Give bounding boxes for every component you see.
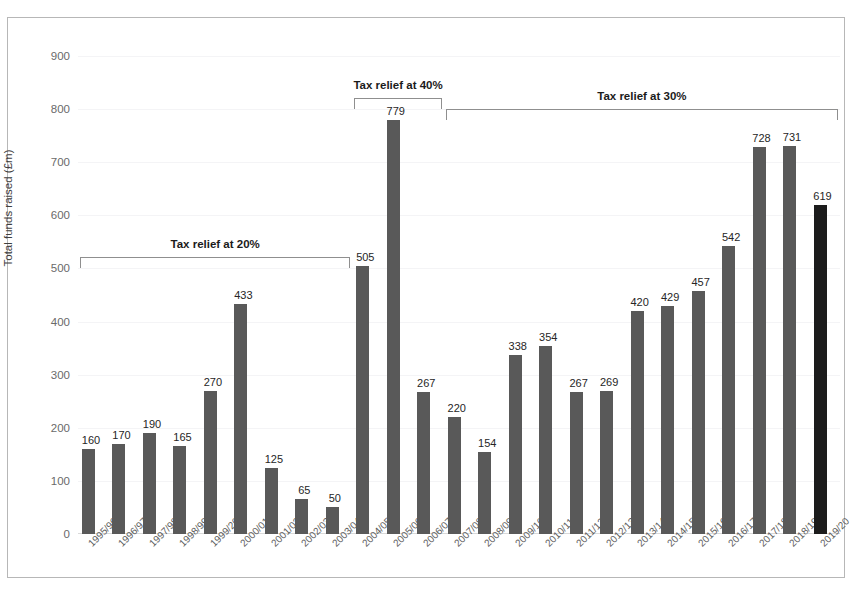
y-axis-tick-label: 300 [51, 369, 70, 381]
y-axis-tick-label: 900 [51, 50, 70, 62]
bar-slot: 502003/04 [322, 56, 348, 534]
annotation-bracket-label: Tax relief at 30% [597, 90, 686, 102]
chart-frame: Total funds raised (£m) 0100200300400500… [7, 17, 845, 578]
bar[interactable] [326, 507, 339, 534]
bar-slot: 7312018/19 [779, 56, 805, 534]
bar-value-label: 267 [417, 377, 435, 389]
y-axis-tick-label: 800 [51, 103, 70, 115]
bar-slot: 2672006/07 [413, 56, 439, 534]
y-axis-tick-label: 100 [51, 475, 70, 487]
bar-value-label: 338 [509, 340, 527, 352]
bar[interactable] [417, 392, 430, 534]
bar-slot: 1701996/97 [108, 56, 134, 534]
bar[interactable] [356, 266, 369, 534]
bar-slot: 652002/03 [291, 56, 317, 534]
y-axis-tick-label: 600 [51, 209, 70, 221]
bar-value-label: 165 [173, 431, 191, 443]
bar-slot: 5052004/05 [352, 56, 378, 534]
bar-value-label: 220 [448, 402, 466, 414]
bar-value-label: 267 [569, 377, 587, 389]
bar-value-label: 50 [329, 492, 341, 504]
bar[interactable] [753, 147, 766, 534]
bar-value-label: 270 [204, 376, 222, 388]
annotation-bracket [446, 109, 838, 120]
bar-value-label: 170 [112, 429, 130, 441]
annotation-bracket-label: Tax relief at 40% [353, 79, 442, 91]
bar[interactable] [631, 311, 644, 534]
bar[interactable] [600, 391, 613, 534]
bar-slot: 4202013/14 [627, 56, 653, 534]
bar-series: 1601995/961701996/971901997/981651998/99… [78, 56, 840, 534]
bar[interactable] [112, 444, 125, 534]
bar[interactable] [448, 417, 461, 534]
bar[interactable] [478, 452, 491, 534]
y-axis-tick-label: 500 [51, 262, 70, 274]
bar-slot: 2672011/12 [566, 56, 592, 534]
bar-slot: 3542010/11 [535, 56, 561, 534]
bar-value-label: 65 [298, 484, 310, 496]
bar[interactable] [387, 120, 400, 534]
bar-slot: 5422016/17 [718, 56, 744, 534]
annotation-bracket-label: Tax relief at 20% [171, 238, 260, 250]
bar-value-label: 731 [783, 131, 801, 143]
bar-slot: 7282017/18 [749, 56, 775, 534]
top-caption-strip [0, 0, 868, 14]
bar-value-label: 433 [234, 289, 252, 301]
bar-slot: 4332000/01 [230, 56, 256, 534]
annotation-bracket [354, 98, 441, 109]
annotation-bracket [80, 257, 350, 268]
bar-slot: 1651998/99 [169, 56, 195, 534]
bar-slot: 6192019/20 [810, 56, 836, 534]
bar-value-label: 160 [82, 434, 100, 446]
y-axis-tick-label: 200 [51, 422, 70, 434]
bar-value-label: 619 [813, 190, 831, 202]
bar-value-label: 457 [691, 276, 709, 288]
bar-slot: 2202007/08 [444, 56, 470, 534]
bar-value-label: 269 [600, 376, 618, 388]
bar-slot: 7792005/06 [383, 56, 409, 534]
bar[interactable] [204, 391, 217, 534]
bar[interactable] [265, 468, 278, 534]
bar-value-label: 429 [661, 291, 679, 303]
bar-slot: 1601995/96 [78, 56, 104, 534]
bar-value-label: 420 [630, 296, 648, 308]
bar-slot: 4292014/15 [657, 56, 683, 534]
bar-value-label: 154 [478, 437, 496, 449]
bar[interactable] [570, 392, 583, 534]
bar[interactable] [509, 355, 522, 535]
y-axis-tick-label: 0 [64, 528, 70, 540]
bar[interactable] [234, 304, 247, 534]
bar-value-label: 505 [356, 251, 374, 263]
bar[interactable] [143, 433, 156, 534]
bar-slot: 2692012/13 [596, 56, 622, 534]
y-axis-tick-label: 400 [51, 316, 70, 328]
bar-value-label: 190 [143, 418, 161, 430]
bar-value-label: 354 [539, 331, 557, 343]
plot-area: 0100200300400500600700800900 1601995/961… [78, 56, 840, 534]
bar[interactable] [783, 146, 796, 534]
bar[interactable] [173, 446, 186, 534]
bar[interactable] [82, 449, 95, 534]
bar-value-label: 728 [752, 132, 770, 144]
bar-slot: 2701999/2000 [200, 56, 226, 534]
bar-slot: 1252001/02 [261, 56, 287, 534]
bar-slot: 4572015/16 [688, 56, 714, 534]
bar-value-label: 542 [722, 231, 740, 243]
bar-slot: 1542008/09 [474, 56, 500, 534]
bar[interactable] [692, 291, 705, 534]
bar[interactable] [295, 499, 308, 534]
bar[interactable] [539, 346, 552, 534]
bar-slot: 1901997/98 [139, 56, 165, 534]
bar[interactable] [814, 205, 827, 534]
y-axis-title: Total funds raised (£m) [2, 98, 14, 318]
bar-slot: 3382009/10 [505, 56, 531, 534]
bar[interactable] [722, 246, 735, 534]
y-axis-tick-label: 700 [51, 156, 70, 168]
bar[interactable] [661, 306, 674, 534]
bar-value-label: 125 [265, 453, 283, 465]
